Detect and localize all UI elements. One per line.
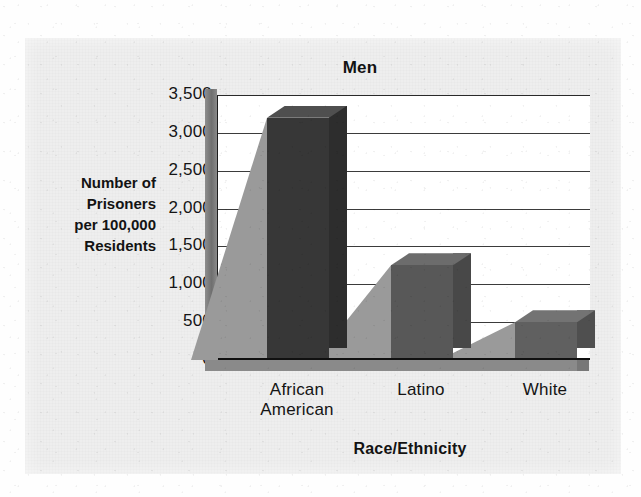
bar-chart: Men Number of Prisoners per 100,000 Resi… — [0, 0, 641, 497]
x-axis-category-label: White — [485, 380, 605, 400]
x-axis-category-labels: AfricanAmericanLatinoWhite — [0, 0, 641, 497]
scanned-page: Men Number of Prisoners per 100,000 Resi… — [0, 0, 641, 497]
x-axis-title: Race/Ethnicity — [310, 440, 510, 458]
x-axis-category-label: AfricanAmerican — [237, 380, 357, 420]
x-axis-category-label-line: White — [485, 380, 605, 400]
x-axis-category-label: Latino — [361, 380, 481, 400]
x-axis-category-label-line: Latino — [361, 380, 481, 400]
x-axis-category-label-line: American — [237, 400, 357, 420]
x-axis-category-label-line: African — [237, 380, 357, 400]
